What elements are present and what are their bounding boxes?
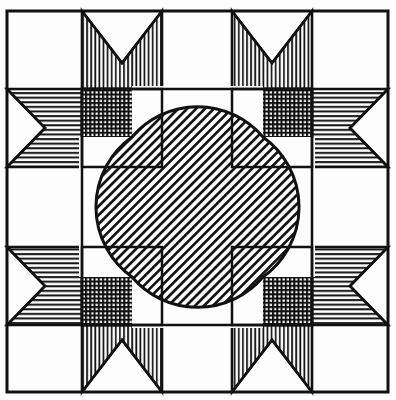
drawing-canvas (0, 0, 396, 400)
quilt-block-illustration (0, 0, 396, 400)
